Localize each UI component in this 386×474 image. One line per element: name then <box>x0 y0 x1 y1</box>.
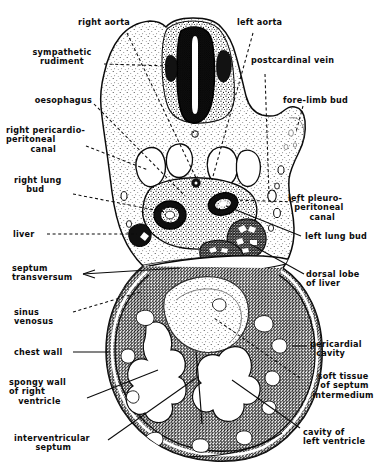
label-septum-transversum: septum transversum <box>12 264 94 283</box>
sympathetic-rudiment-shape <box>165 55 177 81</box>
label-right-lung-bud: right lung bud <box>14 176 88 195</box>
label-cavity-of-left-ventricle: cavity of left ventricle <box>303 428 386 447</box>
label-sympathetic-rudiment: sympathetic rudiment <box>18 48 106 67</box>
label-right-aorta: right aorta <box>36 18 130 27</box>
anatomical-section-figure: right aorta left aorta sympathetic rudim… <box>0 0 386 474</box>
label-sinus-venosus: sinus venosus <box>14 308 74 327</box>
right-lung-bud-shape <box>154 201 186 229</box>
label-oesophagus: oesophagus <box>8 96 92 105</box>
label-postcardinal-vein: postcardinal vein <box>251 56 371 65</box>
label-interventricular-septum: interventricular septum <box>14 434 114 453</box>
heart-region <box>106 266 322 461</box>
label-left-aorta: left aorta <box>237 18 327 27</box>
label-left-lung-bud: left lung bud <box>305 232 385 241</box>
label-liver: liver <box>13 230 53 239</box>
label-fore-limb-bud: fore-limb bud <box>283 96 383 105</box>
label-chest-wall: chest wall <box>14 348 80 357</box>
label-left-pleuro-peritoneal-canal: left pleuro- peritoneal canal <box>288 194 384 222</box>
label-pericardial-cavity: pericardial cavity <box>310 340 386 359</box>
label-right-pericardio-peritoneal-canal: right pericardio- peritoneal canal <box>6 126 98 154</box>
label-spongy-wall-of-right-ventricle: spongy wall of right ventricle <box>9 378 93 406</box>
label-dorsal-lobe-of-liver: dorsal lobe of liver <box>306 270 384 289</box>
label-soft-tissue-of-septum-intermedium: soft tissue of septum intermedium <box>303 372 383 400</box>
